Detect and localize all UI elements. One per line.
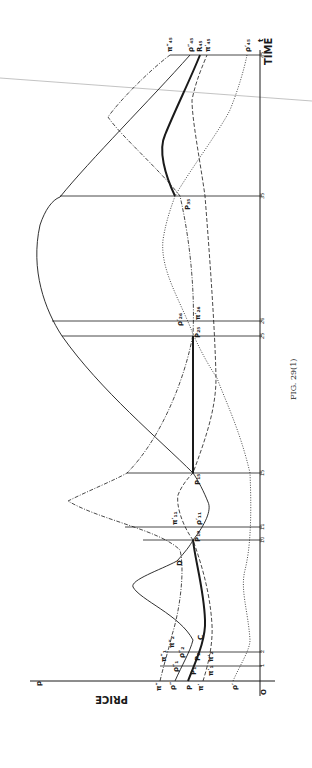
price-time-diagram: 1 2 10 11 15 25 26 35 45 TIME t PRICE p … (0, 0, 312, 768)
scan-artifact-line (0, 78, 312, 101)
label-rho-dd-0: ρ″ (169, 682, 177, 690)
label-rho-dd-2: ρ″₂ (178, 647, 186, 658)
figure-caption: FIG. 29(1) (289, 359, 298, 400)
price-symbol: p (35, 681, 43, 686)
label-pi-dd-1: π″₁ (160, 650, 168, 662)
label-P-10: P₁₀ (194, 531, 202, 542)
label-rho-d-0: ρ′ (231, 683, 239, 690)
tick-2: 2 (259, 650, 265, 653)
time-gridlines (52, 55, 262, 666)
labels-t0: π″ ρ″ P π′ ρ′ (155, 682, 239, 691)
rho-double-prime-curve (37, 55, 209, 681)
point-C-label: C (197, 635, 205, 640)
label-pi-d-2: π′₂ (207, 652, 215, 662)
tick-35: 35 (259, 193, 265, 199)
label-pi-d-1: π′₁ (207, 666, 215, 676)
tick-26: 26 (259, 318, 265, 324)
label-rho-dd-1: ρ″₁ (172, 661, 180, 672)
label-pi-d-0: π′ (197, 683, 205, 691)
label-pi-dd-45: π″₄₅ (166, 37, 174, 52)
label-rho-d-26: ρ′₂₆ (176, 313, 184, 326)
rho-prime-curve (163, 55, 251, 681)
price-axis-label: PRICE (95, 694, 128, 705)
label-P-1: P₁ (190, 667, 198, 675)
label-P-0: P (186, 685, 194, 690)
label-pi-d-26: π′₂₆ (194, 306, 202, 320)
label-pi-dd-0: π″ (155, 682, 163, 691)
label-P-35: P₃₅ (184, 199, 192, 210)
label-pi-dd-2: π″₂ (168, 636, 176, 648)
tick-15: 15 (259, 470, 265, 476)
origin-label: O (260, 689, 268, 695)
tick-25: 25 (259, 333, 265, 339)
label-rho-dd-45: ρ″₄₅ (187, 38, 195, 52)
label-P-15: P₁₅ (194, 474, 202, 485)
point-D-label: D (176, 560, 184, 566)
tick-10: 10 (259, 537, 265, 543)
tick-11: 11 (259, 524, 265, 530)
label-P-25: P₂₅ (194, 327, 202, 338)
label-rho-d-11: ρ′₁₁ (195, 512, 203, 525)
label-R-45: R₄₅ (196, 40, 204, 52)
label-pi-d-45: π′₄₅ (204, 38, 212, 52)
label-rho-d-45: ρ′₄₅ (244, 39, 252, 52)
tick-1: 1 (259, 664, 265, 667)
label-P-2: P₂ (194, 653, 202, 661)
labels-t45: π″₄₅ ρ″₄₅ R₄₅ π′₄₅ ρ′₄₅ (166, 37, 252, 52)
labels-t1-t2: π″₁ ρ″₁ P₁ π′₁ π″₂ ρ″₂ P₂ π′₂ (160, 636, 215, 676)
label-pi-d-11: π′₁₁ (171, 511, 179, 525)
